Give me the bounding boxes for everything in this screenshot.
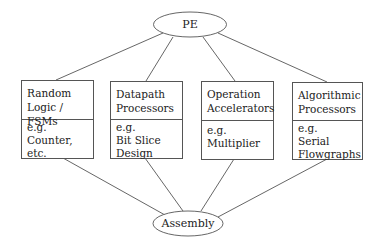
- title-line: Algorithmic: [298, 88, 359, 102]
- edge-pe-operation: [203, 37, 235, 81]
- edge-datapath-assembly: [145, 158, 183, 211]
- box-examples: e.g. Serial Flowgraphs: [293, 121, 362, 161]
- example-line: Multiplier: [207, 137, 270, 150]
- title-line: Random: [27, 86, 90, 100]
- edge-pe-random: [56, 33, 163, 80]
- assembly-label: Assembly: [162, 217, 215, 230]
- edge-pe-algorithmic: [218, 33, 327, 82]
- box-examples: e.g. Multiplier: [202, 121, 273, 150]
- title-line: Processors: [298, 102, 359, 116]
- box-random-logic: Random Logic / FSMs e.g. Counter, etc.: [21, 80, 94, 159]
- edge-algorithmic-assembly: [218, 159, 327, 217]
- example-line: e.g.: [207, 124, 270, 137]
- box-algorithmic: Algorithmic Processors e.g. Serial Flowg…: [292, 82, 363, 160]
- pe-label: PE: [182, 18, 197, 31]
- title-line: Accelerators: [207, 101, 270, 115]
- example-line: Bit Slice: [116, 134, 179, 147]
- box-title: Operation Accelerators: [202, 82, 273, 121]
- assembly-node: Assembly: [153, 211, 223, 236]
- edge-random-assembly: [63, 158, 165, 215]
- edge-operation-assembly: [201, 159, 234, 211]
- title-line: Operation: [207, 87, 270, 101]
- pe-node: PE: [153, 12, 227, 37]
- example-line: Counter,: [27, 134, 90, 147]
- edge-pe-datapath: [146, 37, 173, 81]
- title-line: Datapath: [116, 87, 179, 101]
- box-title: Random Logic / FSMs: [22, 81, 93, 120]
- example-line: Design: [116, 147, 179, 160]
- box-operation-accelerators: Operation Accelerators e.g. Multiplier: [201, 81, 274, 160]
- example-line: e.g.: [298, 122, 359, 135]
- title-line: Processors: [116, 101, 179, 115]
- example-line: e.g.: [27, 121, 90, 134]
- box-title: Algorithmic Processors: [293, 83, 362, 121]
- example-line: e.g.: [116, 121, 179, 134]
- box-examples: e.g. Bit Slice Design: [111, 120, 182, 160]
- example-line: Flowgraphs: [298, 148, 359, 161]
- box-title: Datapath Processors: [111, 82, 182, 120]
- box-datapath: Datapath Processors e.g. Bit Slice Desig…: [110, 81, 183, 159]
- example-line: Serial: [298, 135, 359, 148]
- example-line: etc.: [27, 147, 90, 160]
